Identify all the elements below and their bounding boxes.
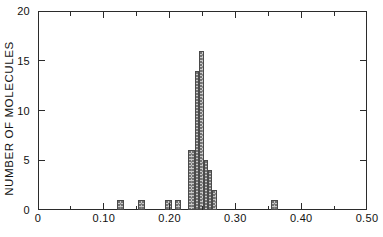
histogram-bar xyxy=(271,200,278,210)
y-tick-label: 15 xyxy=(0,55,30,67)
x-major-tick xyxy=(103,203,104,210)
histogram-bar xyxy=(188,150,195,210)
y-axis-title: NUMBER OF MOLECULES xyxy=(0,0,18,237)
x-minor-tick-top xyxy=(202,11,203,16)
x-tick-label: 0.30 xyxy=(224,212,247,224)
x-minor-tick xyxy=(334,206,335,211)
y-major-tick-right xyxy=(360,160,367,161)
x-minor-tick xyxy=(202,206,203,211)
x-major-tick xyxy=(235,203,236,210)
x-minor-tick-top xyxy=(136,11,137,16)
x-tick-label: 0.40 xyxy=(290,212,313,224)
y-tick-label: 5 xyxy=(0,154,30,166)
x-minor-tick-top xyxy=(70,11,71,16)
x-major-tick xyxy=(169,203,170,210)
histogram-bar xyxy=(212,190,217,210)
y-major-tick xyxy=(38,160,45,161)
y-major-tick xyxy=(38,60,45,61)
x-minor-tick-top xyxy=(334,11,335,16)
x-tick-label: 0.20 xyxy=(158,212,181,224)
y-tick-label: 10 xyxy=(0,105,30,117)
y-major-tick-right xyxy=(360,60,367,61)
x-minor-tick-top xyxy=(268,11,269,16)
x-major-tick-top xyxy=(235,11,236,18)
y-major-tick-right xyxy=(360,110,367,111)
x-major-tick-top xyxy=(103,11,104,18)
histogram-bars xyxy=(38,11,367,210)
x-tick-label: 0.50 xyxy=(356,212,379,224)
x-minor-tick xyxy=(70,206,71,211)
histogram-bar xyxy=(138,200,145,210)
histogram-bar xyxy=(175,200,182,210)
y-tick-label: 20 xyxy=(0,5,30,17)
plot-area xyxy=(38,11,367,210)
x-tick-label: 0 xyxy=(35,212,41,224)
x-tick-label: 0.10 xyxy=(92,212,115,224)
chart-figure: NUMBER OF MOLECULES 00.100.200.300.400.5… xyxy=(0,0,383,237)
x-minor-tick xyxy=(136,206,137,211)
x-major-tick-top xyxy=(301,11,302,18)
x-minor-tick xyxy=(268,206,269,211)
histogram-bar xyxy=(117,200,124,210)
x-major-tick xyxy=(301,203,302,210)
y-major-tick xyxy=(38,110,45,111)
y-tick-label: 0 xyxy=(0,204,30,216)
x-major-tick-top xyxy=(169,11,170,18)
